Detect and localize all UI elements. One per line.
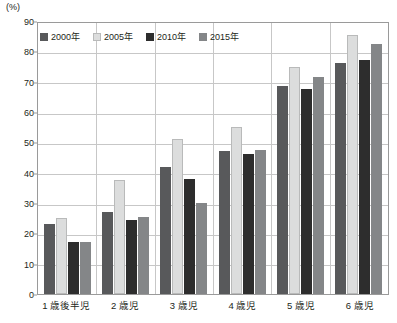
bar (301, 89, 312, 294)
x-axis-tick-label: 5 歳児 (272, 298, 331, 312)
bar (255, 150, 266, 294)
y-axis-unit-label: (%) (6, 2, 20, 12)
legend-label: 2000年 (51, 30, 80, 43)
bar (313, 77, 324, 294)
bar (56, 218, 67, 294)
y-axis-tick-label: 50 (8, 138, 34, 148)
y-axis-tick-label: 30 (8, 199, 34, 209)
bar (114, 180, 125, 294)
x-axis-tick-label: 3 歳児 (154, 298, 213, 312)
bar (196, 203, 207, 294)
bar (243, 154, 254, 294)
bar (347, 35, 358, 294)
bar (102, 212, 113, 294)
y-axis-tick-label: 70 (8, 78, 34, 88)
bar (80, 242, 91, 294)
y-axis-tick-label: 10 (8, 260, 34, 270)
legend-swatch-icon (199, 33, 207, 41)
y-axis-tick-label: 20 (8, 229, 34, 239)
bar (359, 60, 370, 294)
x-axis-tick-labels: 1 歳後半児2 歳児3 歳児4 歳児5 歳児6 歳児 (37, 298, 389, 312)
bar-group (330, 23, 388, 294)
legend-item: 2000年 (40, 30, 80, 43)
y-axis-tick-label: 40 (8, 169, 34, 179)
bar (68, 242, 79, 294)
x-axis-tick-label: 1 歳後半児 (37, 298, 96, 312)
plot-area (37, 22, 389, 295)
bar-group (96, 23, 154, 294)
bar (44, 224, 55, 294)
y-axis-tick-label: 0 (8, 290, 34, 300)
bar (335, 63, 346, 294)
legend-label: 2010年 (157, 30, 186, 43)
chart-legend: 2000年2005年2010年2015年 (40, 30, 239, 43)
bar-group (271, 23, 329, 294)
x-axis-tick-label: 2 歳児 (96, 298, 155, 312)
bar-chart: (%) 0102030405060708090 1 歳後半児2 歳児3 歳児4 … (0, 0, 397, 323)
y-axis-tick-label: 90 (8, 17, 34, 27)
bar (160, 167, 171, 294)
y-axis-tick-label: 80 (8, 47, 34, 57)
bar (172, 139, 183, 294)
bar-group (155, 23, 213, 294)
bar-group (213, 23, 271, 294)
y-axis-tick-label: 60 (8, 108, 34, 118)
bar (371, 44, 382, 294)
legend-swatch-icon (40, 33, 48, 41)
bar (289, 67, 300, 295)
x-axis-tick-label: 6 歳児 (330, 298, 389, 312)
legend-label: 2005年 (104, 30, 133, 43)
legend-item: 2010年 (146, 30, 186, 43)
legend-item: 2015年 (199, 30, 239, 43)
legend-swatch-icon (93, 33, 101, 41)
x-axis-tick-label: 4 歳児 (213, 298, 272, 312)
bar-group (38, 23, 96, 294)
bar (138, 217, 149, 294)
bar (219, 151, 230, 294)
bar (184, 179, 195, 294)
legend-item: 2005年 (93, 30, 133, 43)
bar (231, 127, 242, 294)
legend-label: 2015年 (210, 30, 239, 43)
bar-groups (38, 23, 388, 294)
bar (126, 220, 137, 294)
legend-swatch-icon (146, 33, 154, 41)
bar (277, 86, 288, 294)
